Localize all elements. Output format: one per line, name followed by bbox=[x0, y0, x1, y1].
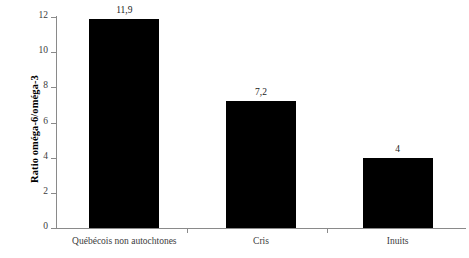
bar: 7,2 bbox=[226, 101, 296, 228]
x-axis-tick bbox=[327, 228, 328, 233]
bar: 4 bbox=[363, 158, 433, 228]
plot-area: 024681012 11,97,24 Québécois non autocht… bbox=[56, 17, 466, 228]
y-axis-tick-label: 8 bbox=[43, 80, 48, 90]
y-axis-tick: 10 bbox=[51, 52, 56, 53]
y-axis-tick-label: 2 bbox=[43, 186, 48, 196]
y-axis-tick-label: 10 bbox=[39, 45, 49, 55]
bar-chart: Ratio oméga-6/oméga-3 024681012 11,97,24… bbox=[0, 0, 469, 258]
y-axis-tick: 6 bbox=[51, 123, 56, 124]
y-axis-tick: 8 bbox=[51, 87, 56, 88]
y-axis-tick-label: 4 bbox=[43, 151, 48, 161]
y-axis-tick: 0 bbox=[51, 228, 56, 229]
bar: 11,9 bbox=[89, 19, 159, 228]
y-axis-tick-label: 12 bbox=[39, 10, 49, 20]
category-label: Cris bbox=[253, 236, 269, 246]
y-axis-tick: 2 bbox=[51, 193, 56, 194]
category-label: Inuits bbox=[387, 236, 409, 246]
y-axis-line bbox=[56, 16, 57, 228]
x-axis-line bbox=[56, 228, 466, 229]
bar-value-label: 11,9 bbox=[116, 5, 132, 15]
category-label: Québécois non autochtones bbox=[72, 236, 176, 246]
y-axis-tick-label: 6 bbox=[43, 116, 48, 126]
bar-value-label: 7,2 bbox=[255, 87, 267, 97]
y-axis-tick-label: 0 bbox=[43, 221, 48, 231]
x-axis-tick bbox=[187, 228, 188, 233]
bar-value-label: 4 bbox=[395, 144, 400, 154]
y-axis-tick: 4 bbox=[51, 158, 56, 159]
y-axis-title: Ratio oméga-6/oméga-3 bbox=[22, 0, 46, 258]
y-axis-tick: 12 bbox=[51, 17, 56, 18]
